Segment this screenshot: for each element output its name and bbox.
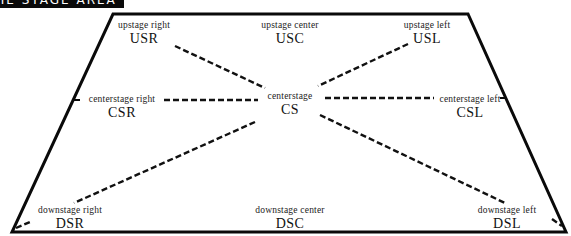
- position-usl-name: upstage left: [404, 20, 450, 31]
- position-usl: upstage left USL: [404, 20, 450, 46]
- position-csr-name: centerstage right: [89, 94, 155, 105]
- position-cs-abbr: CS: [268, 102, 313, 117]
- position-csr: centerstage right CSR: [89, 94, 155, 120]
- position-csl-name: centerstage left: [440, 94, 501, 105]
- position-dsc: downstage center DSC: [255, 205, 324, 231]
- position-usl-abbr: USL: [404, 31, 450, 46]
- position-csr-abbr: CSR: [89, 105, 155, 120]
- stage-diagram: THE STAGE AREA upstage r: [0, 0, 571, 236]
- dash-line-cs-usr: [175, 46, 265, 88]
- stage-outline: [12, 14, 566, 232]
- position-dsr: downstage right DSR: [38, 205, 102, 231]
- position-csl: centerstage left CSL: [440, 94, 501, 120]
- position-cs: centerstage CS: [268, 91, 313, 117]
- position-dsr-name: downstage right: [38, 205, 102, 216]
- position-usc: upstage center USC: [261, 20, 318, 46]
- dash-line-cs-dsl: [320, 115, 505, 203]
- position-dsc-abbr: DSC: [255, 216, 324, 231]
- dash-tick-dsr-corner: [16, 222, 30, 228]
- position-usr-abbr: USR: [118, 31, 170, 46]
- dash-line-cs-usl: [318, 44, 408, 86]
- position-dsl: downstage left DSL: [478, 205, 536, 231]
- position-csl-abbr: CSL: [440, 105, 501, 120]
- position-usr: upstage right USR: [118, 20, 170, 46]
- position-usc-abbr: USC: [261, 31, 318, 46]
- position-dsr-abbr: DSR: [38, 216, 102, 231]
- dash-line-cs-dsr: [74, 122, 255, 203]
- position-dsl-name: downstage left: [478, 205, 536, 216]
- position-usc-name: upstage center: [261, 20, 318, 31]
- position-cs-name: centerstage: [268, 91, 313, 102]
- position-dsc-name: downstage center: [255, 205, 324, 216]
- position-dsl-abbr: DSL: [478, 216, 536, 231]
- position-usr-name: upstage right: [118, 20, 170, 31]
